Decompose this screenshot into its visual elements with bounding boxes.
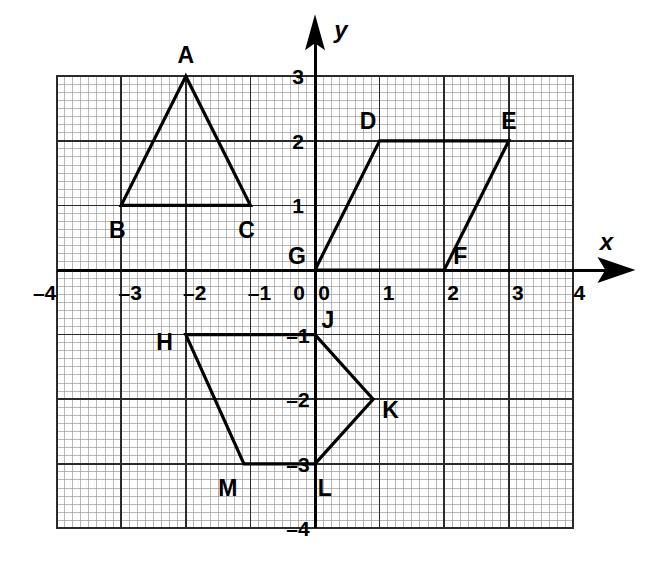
y-tick-label--4: –4 [286, 517, 310, 540]
vertex-label-D: D [360, 108, 377, 134]
vertex-label-E: E [501, 108, 516, 134]
y-tick-label-2: 2 [292, 130, 304, 153]
y-tick-label-3: 3 [292, 65, 304, 88]
vertex-label-L: L [318, 475, 332, 501]
y-tick-label-1: 1 [292, 194, 304, 217]
vertex-label-K: K [382, 397, 399, 423]
x-tick-label-4: 4 [574, 281, 586, 304]
vertex-label-B: B [109, 217, 126, 243]
vertex-label-F: F [453, 243, 467, 269]
coordinate-plane-canvas: –4–3–2–101234321–1–2–3–40 yx ABCGDEFHJKL… [0, 0, 649, 582]
vertex-label-H: H [156, 329, 173, 355]
vertex-label-C: C [238, 217, 255, 243]
vertex-label-G: G [288, 243, 306, 269]
x-tick-label--3: –3 [119, 281, 142, 304]
x-tick-label-2: 2 [447, 281, 459, 304]
vertex-label-J: J [322, 307, 335, 333]
origin-label: 0 [293, 281, 305, 304]
coordinate-plane-figure: –4–3–2–101234321–1–2–3–40 yx ABCGDEFHJKL… [0, 0, 649, 582]
vertex-label-M: M [218, 475, 237, 501]
x-tick-label--2: –2 [183, 281, 206, 304]
x-tick-label-3: 3 [512, 281, 524, 304]
y-tick-label--2: –2 [286, 388, 309, 411]
axis-tick-labels: –4–3–2–101234321–1–2–3–40 [33, 65, 586, 540]
x-axis-name-label: x [598, 228, 615, 255]
x-tick-label-0: 0 [318, 281, 330, 304]
y-axis-name-label: y [333, 16, 349, 43]
vertex-label-A: A [177, 42, 194, 68]
x-tick-label--1: –1 [248, 281, 272, 304]
x-tick-label--4: –4 [33, 281, 57, 304]
x-tick-label-1: 1 [383, 281, 395, 304]
